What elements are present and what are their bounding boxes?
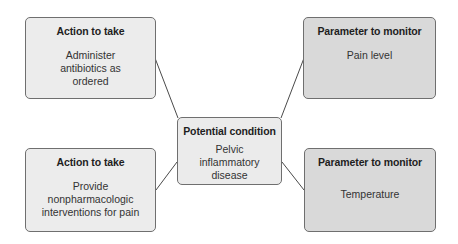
parameter-box-top-right: Parameter to monitor Pain level [303,17,436,99]
box-text: Provide nonpharmacologic interventions f… [26,180,155,219]
connector-top-right [281,58,304,118]
box-title: Parameter to monitor [304,25,435,37]
box-text: Pain level [304,49,435,62]
box-title: Parameter to monitor [305,156,435,168]
connector-top-left [155,58,178,118]
box-title: Action to take [26,156,155,168]
box-text: Administer antibiotics as ordered [26,49,155,88]
potential-condition-box: Potential condition Pelvic inflammatory … [177,117,282,185]
box-text: Temperature [305,188,435,201]
box-title: Action to take [26,25,155,37]
center-text: Pelvic inflammatory disease [178,143,281,182]
action-box-top-left: Action to take Administer antibiotics as… [25,17,156,99]
parameter-box-bottom-right: Parameter to monitor Temperature [304,148,436,232]
action-box-bottom-left: Action to take Provide nonpharmacologic … [25,148,156,232]
connector-bottom-right [282,162,304,190]
center-title: Potential condition [178,125,281,137]
connector-bottom-left [156,162,177,190]
